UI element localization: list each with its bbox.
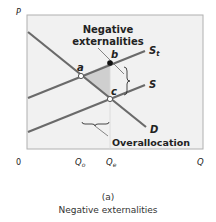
qe-tick-label: Qe bbox=[106, 157, 117, 168]
label-a: a bbox=[77, 62, 84, 73]
overallocation-label: Overallocation bbox=[112, 137, 190, 148]
qo-tick-label: Qo bbox=[75, 157, 86, 168]
q-axis-label: Q bbox=[197, 157, 204, 167]
point-a bbox=[78, 73, 83, 78]
label-b: b bbox=[111, 49, 118, 60]
neg-ext-label-line1: Negative bbox=[83, 24, 134, 35]
label-c: c bbox=[111, 86, 117, 97]
chart-canvas: a b c Negative externalities St S D Over… bbox=[0, 0, 216, 222]
origin-label: 0 bbox=[16, 158, 21, 167]
point-c bbox=[107, 96, 112, 101]
label-d: D bbox=[150, 124, 158, 135]
panel-label: (a) bbox=[0, 192, 216, 202]
p-axis-label: P bbox=[16, 8, 21, 17]
chart-caption: Negative externalities bbox=[0, 205, 216, 215]
label-s: S bbox=[149, 79, 156, 90]
point-b bbox=[107, 60, 113, 66]
neg-ext-label-line2: externalities bbox=[72, 36, 143, 47]
